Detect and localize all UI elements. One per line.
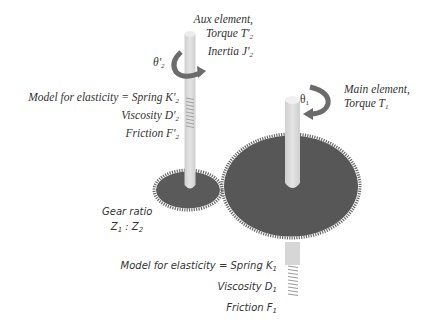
main-element-label: Main element, Torque T1 <box>344 82 410 114</box>
main-spring-assembly <box>285 242 300 296</box>
gear-ratio-label: Gear ratio Z1 : Z2 <box>102 204 152 238</box>
aux-spring-label: Model for elasticity = Spring K'2 <box>28 90 179 108</box>
aux-friction-label: Friction F'2 <box>28 126 179 144</box>
aux-element-label: Aux element, Torque T'2 Inertia J'2 <box>194 12 253 62</box>
main-angle-label: θ1 <box>300 92 309 110</box>
aux-inertia-label: Inertia J'2 <box>194 44 253 62</box>
aux-torque-label: Torque T'2 <box>194 26 253 44</box>
main-element-title: Main element, <box>344 82 410 96</box>
aux-angle-label: θ'2 <box>153 55 165 73</box>
aux-viscosity-label: Viscosity D'2 <box>28 108 179 126</box>
main-friction-label: Friction F1 <box>121 299 277 320</box>
main-spring-icon <box>288 266 298 296</box>
main-shaft <box>285 96 300 188</box>
aux-element-title: Aux element, <box>194 12 253 26</box>
main-spring-label: Model for elasticity = Spring K1 <box>121 257 277 278</box>
aux-elasticity-label: Model for elasticity = Spring K'2 Viscos… <box>28 90 179 144</box>
main-viscosity-label: Viscosity D1 <box>121 278 277 299</box>
gear-ratio-value: Z1 : Z2 <box>102 219 152 238</box>
main-torque-label: Torque T1 <box>344 96 410 114</box>
gear-ratio-title: Gear ratio <box>102 204 152 219</box>
main-elasticity-label: Model for elasticity = Spring K1 Viscosi… <box>121 257 277 320</box>
